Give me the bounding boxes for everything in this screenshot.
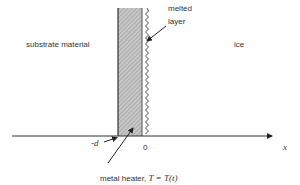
tick-label-minus-d: -d	[91, 139, 99, 148]
melted-layer-arrow	[147, 26, 166, 41]
metal-heater-label: metal heater, T = T(t)	[100, 174, 177, 183]
metal-heater	[118, 8, 142, 136]
melted-layer-label-line1: melted	[168, 4, 192, 13]
metal-heater-text: metal heater,	[100, 174, 146, 183]
x-axis-label: x	[283, 143, 287, 152]
melt-front-wavy-line	[146, 8, 149, 134]
ice-label: ice	[234, 40, 244, 49]
tick-label-zero: 0	[143, 143, 147, 152]
minus-d-arrow	[104, 138, 117, 143]
diagram-canvas	[0, 0, 300, 185]
substrate-label: substrate material	[26, 40, 90, 49]
heater-temperature-equation: T = T(t)	[148, 173, 177, 183]
melted-layer-label-line2: layer	[168, 17, 185, 26]
